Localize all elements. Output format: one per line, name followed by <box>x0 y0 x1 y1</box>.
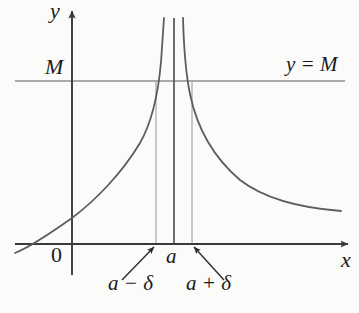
y-axis-label: y <box>50 0 60 22</box>
a-plus-delta-label: a + δ <box>186 273 231 294</box>
x-axis-label: x <box>341 249 351 271</box>
limit-diagram-figure: y x 0 M y = M a a − δ a + δ <box>0 0 359 313</box>
level-tick-label-M: M <box>45 56 63 78</box>
point-a-label: a <box>166 246 177 267</box>
curve-right-branch <box>183 18 341 211</box>
level-line-label-y-equals-M: y = M <box>286 54 338 75</box>
a-minus-delta-label: a − δ <box>108 273 153 294</box>
curve-left-branch <box>15 18 164 253</box>
origin-label: 0 <box>51 244 62 266</box>
